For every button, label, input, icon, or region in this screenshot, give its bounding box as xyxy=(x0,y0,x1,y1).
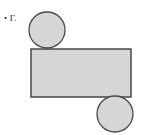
figure-canvas: • Γ. xyxy=(0,0,143,135)
geometric-figure-svg xyxy=(0,0,143,135)
top-circle-shape xyxy=(29,12,65,48)
figure-label: • Γ. xyxy=(4,14,17,23)
main-rectangle-shape xyxy=(31,49,131,97)
bottom-circle-shape xyxy=(97,96,133,132)
figure-label-text: Γ. xyxy=(10,14,17,23)
bullet-icon: • xyxy=(4,15,7,23)
